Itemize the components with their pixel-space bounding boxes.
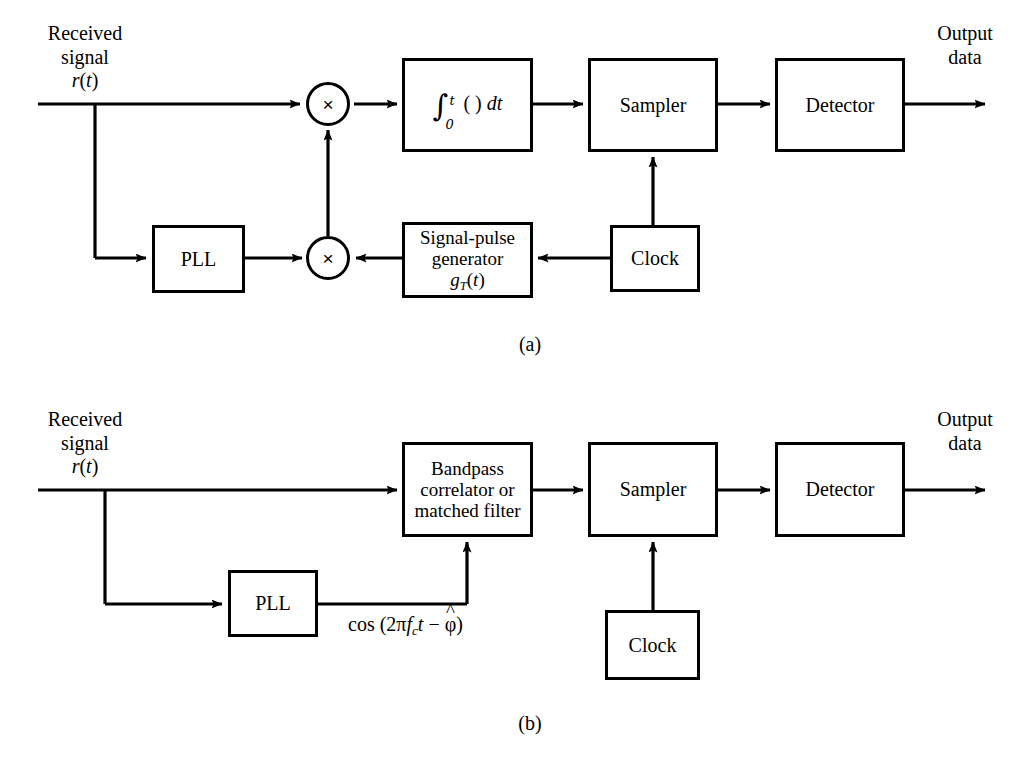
panel-a-input-line2: signal [20, 46, 150, 70]
correlator-line2: correlator or [420, 479, 514, 500]
figure-canvas: Received signal r(t) Output data × × ∫t0… [0, 0, 1023, 761]
panel-a-signal-pulse-generator-block[interactable]: Signal-pulse generator gT(t) [402, 222, 533, 298]
panel-a-input-line3: r(t) [20, 69, 150, 93]
panel-b-input-line3: r(t) [20, 455, 150, 479]
panel-a-caption: (a) [480, 333, 580, 356]
multiply-icon: × [322, 249, 333, 268]
panel-b-output-label: Output data [915, 408, 1015, 455]
panel-a-multiplier-2[interactable]: × [306, 236, 350, 280]
panel-a-output-label: Output data [915, 22, 1015, 69]
panel-b-input-line1: Received [20, 408, 150, 432]
integrator-upper-limit: t [449, 96, 454, 106]
panel-a-sampler-label: Sampler [620, 94, 687, 116]
panel-a-output-line2: data [915, 46, 1015, 70]
panel-a-integrator-block[interactable]: ∫t0 ( ) dt [402, 58, 533, 152]
multiply-icon: × [322, 95, 333, 114]
panel-b-clock-label: Clock [629, 634, 677, 656]
panel-b-detector-block[interactable]: Detector [775, 442, 905, 537]
panel-b-output-line2: data [915, 432, 1015, 456]
panel-a-clock-label: Clock [631, 247, 679, 269]
panel-b-caption: (b) [480, 712, 580, 735]
panel-b-input-line2: signal [20, 432, 150, 456]
panel-b-detector-label: Detector [806, 478, 875, 500]
panel-a-sampler-block[interactable]: Sampler [588, 58, 718, 152]
panel-a-input-label: Received signal r(t) [20, 22, 150, 93]
panel-a-detector-block[interactable]: Detector [775, 58, 905, 152]
panel-a-input-line1: Received [20, 22, 150, 46]
panel-b-sampler-label: Sampler [620, 478, 687, 500]
integrator-expression: ∫t0 ( ) dt [433, 92, 503, 117]
integrator-lower-limit: 0 [445, 120, 453, 130]
generator-line1: Signal-pulse [420, 227, 515, 248]
panel-a-multiplier-1[interactable]: × [306, 82, 350, 126]
panel-a-pll-label: PLL [181, 248, 217, 270]
panel-a-output-line1: Output [915, 22, 1015, 46]
panel-a-pll-block[interactable]: PLL [152, 225, 245, 293]
integrator-body: ( ) dt [463, 92, 502, 114]
panel-b-pll-label: PLL [255, 592, 291, 614]
generator-line2: generator [432, 248, 504, 269]
correlator-line1: Bandpass [431, 458, 504, 479]
panel-b-correlator-block[interactable]: Bandpass correlator or matched filter [402, 442, 533, 537]
panel-b-clock-block[interactable]: Clock [605, 610, 700, 680]
panel-a-detector-label: Detector [806, 94, 875, 116]
panel-b-input-label: Received signal r(t) [20, 408, 150, 479]
panel-b-sampler-block[interactable]: Sampler [588, 442, 718, 537]
panel-a-clock-block[interactable]: Clock [610, 225, 700, 292]
panel-b-output-line1: Output [915, 408, 1015, 432]
correlator-line3: matched filter [414, 500, 520, 521]
panel-b-carrier-expression: cos (2πfct − ^φ) [348, 613, 463, 638]
panel-b-pll-block[interactable]: PLL [228, 570, 318, 637]
generator-line3: gT(t) [450, 269, 484, 293]
